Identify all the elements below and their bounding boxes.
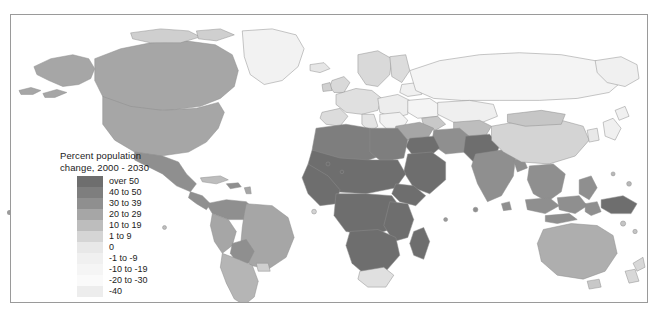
legend-label: -10 to -19 — [109, 264, 148, 275]
legend-swatch — [77, 176, 103, 187]
region-indonesia-sumatra — [525, 198, 559, 214]
island-dot — [444, 218, 448, 222]
legend-title-line2: change, 2000 - 2030 — [60, 162, 188, 174]
island-dot — [340, 170, 344, 174]
region-korea — [587, 128, 599, 142]
region-mongolia — [507, 110, 565, 126]
island-dot — [633, 229, 637, 233]
region-arctic-islands — [131, 29, 201, 43]
legend-rows: over 50 40 to 50 30 to 39 20 to 29 10 to… — [77, 176, 188, 297]
region-iceland — [310, 63, 330, 73]
legend-item: -1 to -9 — [77, 253, 188, 264]
region-india — [472, 150, 516, 202]
region-indonesia-borneo — [557, 196, 587, 214]
legend-item: 20 to 29 — [77, 209, 188, 220]
region-ireland — [322, 83, 332, 92]
region-madagascar — [410, 228, 430, 260]
legend-label: 1 to 9 — [109, 231, 132, 242]
legend-label: 30 to 39 — [109, 198, 142, 209]
legend-item: 10 to 19 — [77, 220, 188, 231]
island-dot — [473, 207, 478, 212]
region-kazakhstan — [438, 100, 498, 124]
region-sri-lanka — [501, 202, 511, 211]
legend-item: over 50 — [77, 176, 188, 187]
region-tasmania — [587, 279, 601, 289]
legend-label: 0 — [109, 242, 114, 253]
region-hispaniola — [226, 183, 241, 189]
island-dot — [620, 221, 625, 226]
legend-label: 20 to 29 — [109, 209, 142, 220]
region-russia — [410, 53, 623, 101]
legend-swatch — [77, 220, 103, 231]
region-scandinavia — [358, 51, 392, 87]
region-western-europe — [336, 88, 382, 114]
region-cuba — [200, 176, 228, 184]
legend-title: Percent population change, 2000 - 2030 — [60, 150, 188, 173]
legend-item: 0 — [77, 242, 188, 253]
region-philippines — [579, 176, 597, 200]
region-libya-egypt — [370, 128, 408, 162]
legend-swatch — [77, 264, 103, 275]
legend-item: 1 to 9 — [77, 231, 188, 242]
legend-swatch — [77, 242, 103, 253]
legend-item: -40 — [77, 286, 188, 297]
region-indonesia-sulawesi — [585, 202, 601, 216]
region-canada — [95, 41, 239, 111]
legend-swatch — [77, 231, 103, 242]
region-indonesia-java — [545, 214, 577, 224]
region-iberia — [320, 108, 348, 126]
legend-label: -40 — [109, 286, 122, 297]
legend-swatch — [77, 275, 103, 286]
region-japan — [615, 106, 629, 120]
legend-label: -20 to -30 — [109, 275, 148, 286]
region-arctic-islands — [196, 29, 234, 41]
legend-item: -10 to -19 — [77, 264, 188, 275]
legend-item: 30 to 39 — [77, 198, 188, 209]
region-greenland — [242, 29, 304, 85]
map-legend: Percent population change, 2000 - 2030 o… — [60, 150, 188, 297]
legend-item: -20 to -30 — [77, 275, 188, 286]
legend-swatch — [77, 187, 103, 198]
island-dot — [627, 181, 632, 186]
legend-swatch — [77, 253, 103, 264]
region-mainland-southeast-asia — [527, 164, 565, 202]
legend-label: 10 to 19 — [109, 220, 142, 231]
region-british-isles — [330, 77, 350, 93]
region-central-america — [188, 192, 210, 210]
legend-title-line1: Percent population — [60, 150, 188, 162]
legend-label: 40 to 50 — [109, 187, 142, 198]
island-dot — [326, 162, 330, 166]
region-aleutians — [43, 89, 67, 97]
legend-label: over 50 — [109, 176, 139, 187]
island-dot — [312, 209, 317, 214]
region-lesser-antilles — [244, 187, 251, 194]
legend-label: -1 to -9 — [109, 253, 138, 264]
map-figure: Percent population change, 2000 - 2030 o… — [0, 0, 658, 316]
region-alaska — [34, 55, 95, 87]
region-aleutians — [19, 87, 41, 94]
island-dot — [611, 172, 615, 176]
region-finland — [390, 55, 410, 83]
region-ukraine — [408, 98, 442, 118]
legend-swatch — [77, 198, 103, 209]
region-southern-africa — [346, 230, 400, 276]
legend-swatch — [77, 286, 103, 297]
region-uruguay — [256, 263, 270, 271]
region-papua-new-guinea — [601, 196, 637, 214]
region-japan — [603, 118, 621, 140]
region-australia — [537, 224, 617, 280]
legend-swatch — [77, 209, 103, 220]
legend-item: 40 to 50 — [77, 187, 188, 198]
